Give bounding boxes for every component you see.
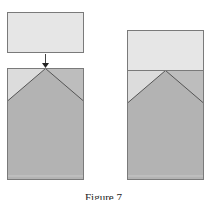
panel-after — [128, 31, 204, 180]
arrow-head-icon — [42, 63, 49, 68]
figure-caption: Figure 7 — [0, 191, 207, 200]
top-block-separate — [8, 13, 84, 53]
diagram — [0, 0, 207, 200]
top-block-attached — [128, 31, 204, 71]
panel-before — [8, 13, 84, 180]
